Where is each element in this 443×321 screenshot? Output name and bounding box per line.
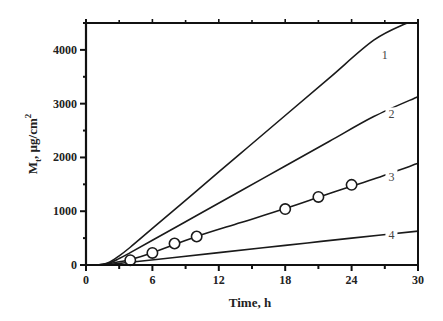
curve-label-1: 1 xyxy=(382,48,388,62)
curve-label-2: 2 xyxy=(388,107,394,121)
curves xyxy=(86,23,418,265)
curve-1 xyxy=(86,23,407,265)
data-point-marker xyxy=(313,192,323,202)
data-point-marker xyxy=(346,180,356,190)
release-profile-chart: 1234 0612182430 01000200030004000 Time, … xyxy=(0,0,443,321)
x-tick-label: 12 xyxy=(213,273,225,287)
curve-label-4: 4 xyxy=(388,228,394,242)
y-axis-title: Mt, µg/cm2 xyxy=(23,113,43,174)
y-tick-labels: 01000200030004000 xyxy=(53,43,77,272)
data-point-marker xyxy=(125,255,135,265)
data-point-marker xyxy=(191,231,201,241)
x-tick-label: 0 xyxy=(83,273,89,287)
x-tick-label: 30 xyxy=(412,273,424,287)
x-axis-title: Time, h xyxy=(229,295,272,310)
y-tick-label: 2000 xyxy=(53,150,77,164)
x-tick-label: 18 xyxy=(279,273,291,287)
data-point-marker xyxy=(147,248,157,258)
curve-labels: 1234 xyxy=(379,48,398,242)
x-tick-label: 24 xyxy=(346,273,358,287)
x-tick-labels: 0612182430 xyxy=(83,273,424,287)
x-tick-label: 6 xyxy=(149,273,155,287)
data-point-marker xyxy=(280,204,290,214)
curve-label-3: 3 xyxy=(388,170,394,184)
data-point-marker xyxy=(169,238,179,248)
axes xyxy=(80,19,418,271)
y-tick-label: 0 xyxy=(71,258,77,272)
y-tick-label: 1000 xyxy=(53,204,77,218)
y-tick-label: 4000 xyxy=(53,43,77,57)
y-tick-label: 3000 xyxy=(53,97,77,111)
